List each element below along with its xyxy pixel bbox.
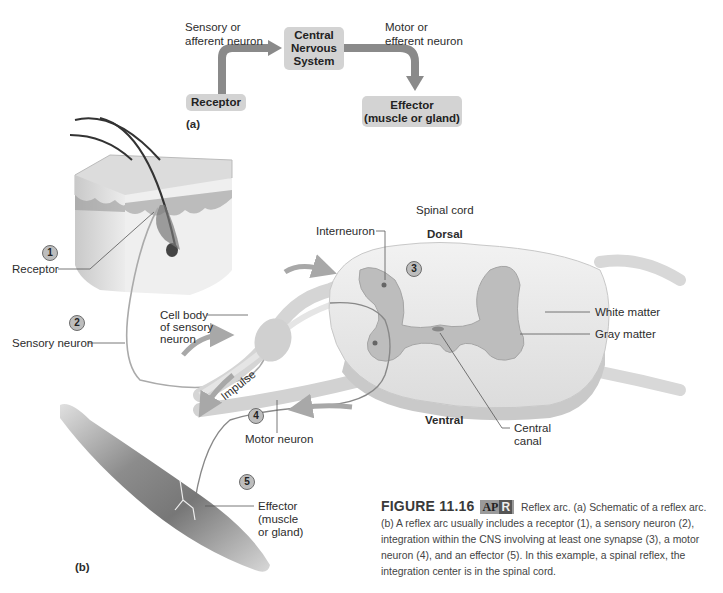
apr-badge: APR [480, 500, 514, 514]
spinal-cord-cross-section [329, 243, 609, 421]
effector-box-line-1: Effector [390, 99, 433, 112]
effector-box: Effector (muscle or gland) [362, 96, 462, 127]
step-3-badge: 3 [406, 261, 422, 277]
effector-label-1: Effector [258, 499, 297, 513]
figure-caption: FIGURE 11.16APR Reflex arc. (a) Schemati… [381, 498, 717, 580]
sensory-neuron-label: Sensory neuron [12, 336, 93, 350]
cell-body-label-3: neuron [160, 332, 196, 346]
spinal-cord-label: Spinal cord [416, 203, 474, 217]
central-canal-label-1: Central [514, 421, 551, 435]
receptor-label: Receptor [12, 262, 59, 276]
cns-box-line-3: System [294, 55, 335, 68]
step-2-badge: 2 [69, 315, 85, 331]
sensory-afferent-label-1: Sensory or [185, 20, 241, 34]
sensory-afferent-label-2: afferent neuron [185, 34, 263, 48]
white-matter-label: White matter [595, 305, 660, 319]
skin-illustration [70, 118, 232, 295]
figure-number: FIGURE 11.16 [381, 498, 474, 514]
muscle-illustration [60, 404, 270, 572]
step-5-badge: 5 [239, 474, 255, 490]
motor-efferent-label-1: Motor or [385, 20, 428, 34]
central-canal-label-2: canal [514, 434, 542, 448]
effector-box-line-2: (muscle or gland) [364, 112, 460, 125]
cns-box-line-1: Central [294, 29, 334, 42]
effector-label-2: (muscle [258, 512, 298, 526]
motor-neuron-label: Motor neuron [245, 432, 313, 446]
interneuron-label: Interneuron [316, 224, 375, 238]
apr-badge-ap: AP [482, 500, 498, 514]
apr-badge-r: R [499, 500, 512, 514]
receptor-box: Receptor [186, 94, 246, 111]
cns-box-line-2: Nervous [291, 42, 337, 55]
motor-efferent-label-2: efferent neuron [385, 34, 463, 48]
step-1-badge: 1 [42, 245, 58, 261]
receptor-box-label: Receptor [191, 96, 241, 109]
ventral-label: Ventral [425, 413, 463, 427]
panel-b-label: (b) [75, 560, 90, 574]
effector-label-3: or gland) [258, 525, 303, 539]
dorsal-label: Dorsal [427, 227, 463, 241]
panel-a-label: (a) [186, 117, 200, 131]
gray-matter-label: Gray matter [595, 327, 656, 341]
step-4-badge: 4 [248, 408, 264, 424]
cns-box: Central Nervous System [284, 27, 344, 70]
